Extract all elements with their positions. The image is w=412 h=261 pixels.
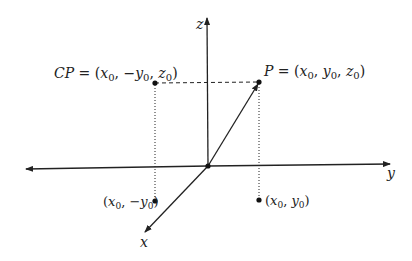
point-cp-label: CP = (x0, −y0, z0) (54, 65, 178, 83)
proj-pos-dot (256, 197, 261, 202)
y-axis-label: y (386, 165, 396, 181)
point-cp-dot (152, 80, 157, 85)
z-axis (207, 18, 208, 166)
y-axis-negative (26, 166, 208, 169)
coordinate-diagram: z y x P = (x0, y0, z0) CP = (x0, −y0, z0… (0, 0, 412, 261)
x-axis-label: x (140, 234, 148, 250)
origin-dot (205, 163, 210, 168)
proj-pos-label: (x0, y0) (265, 193, 310, 210)
y-axis-positive (208, 164, 390, 166)
point-p-label: P = (x0, y0, z0) (263, 63, 365, 81)
position-vector-p (208, 84, 258, 166)
point-p-dot (256, 79, 261, 84)
proj-neg-label: (x0, −y0) (103, 194, 159, 211)
z-axis-label: z (195, 16, 204, 32)
